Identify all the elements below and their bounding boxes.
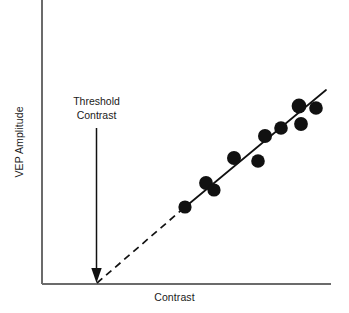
axes-group	[42, 0, 331, 284]
data-point	[251, 154, 265, 168]
y-axis-label-wrapper: VEP Amplitude	[8, 0, 30, 284]
data-point	[274, 121, 288, 135]
data-point	[309, 101, 323, 115]
data-point	[294, 117, 308, 131]
threshold-arrow-group	[91, 128, 101, 283]
x-axis-label: Contrast	[0, 291, 349, 303]
data-points-group	[178, 99, 322, 214]
data-point	[227, 151, 241, 165]
data-point	[258, 129, 272, 143]
threshold-annotation-line-2: Contrast	[41, 109, 152, 123]
threshold-annotation-line-1: Threshold	[41, 95, 152, 109]
data-point	[207, 183, 220, 196]
data-point	[178, 200, 191, 213]
plot-canvas	[0, 0, 349, 313]
y-axis-label: VEP Amplitude	[13, 106, 25, 177]
threshold-contrast-annotation: Threshold Contrast	[41, 95, 152, 122]
vep-contrast-figure: Threshold Contrast VEP Amplitude Contras…	[0, 0, 349, 313]
data-point	[292, 99, 307, 114]
regression-line-dashed-extrapolation	[97, 207, 185, 283]
